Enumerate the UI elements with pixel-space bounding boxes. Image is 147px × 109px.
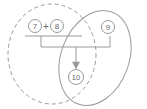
left-set-ellipse (8, 4, 96, 104)
result-arrow-head (73, 62, 80, 69)
node-9-label: 9 (106, 23, 111, 32)
node-10-label: 10 (72, 73, 80, 82)
plus-operator-label: + (43, 21, 49, 32)
combine-bracket (41, 36, 110, 47)
venn-operation-diagram: 7 + 8 9 10 (0, 0, 147, 109)
node-8-label: 8 (55, 22, 60, 31)
right-set-ellipse (46, 0, 143, 109)
node-7-label: 7 (33, 22, 38, 31)
diagram-canvas: 7 + 8 9 10 (0, 0, 147, 109)
